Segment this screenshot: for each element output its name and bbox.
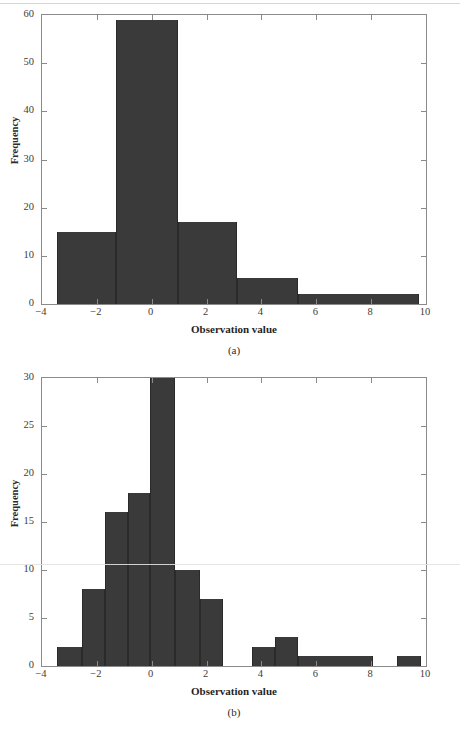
x-axis-tick-label: −2 [90,307,101,318]
y-axis-tick-label: 25 [24,420,35,431]
y-axis-tick [421,570,426,571]
y-axis-tick [42,522,47,523]
x-axis-tick [152,661,153,666]
y-axis-tick-label: 50 [24,57,35,68]
x-axis-tick [207,15,208,20]
x-axis-tick [261,15,262,20]
y-axis-tick [42,474,47,475]
y-axis-tick-label: 20 [24,468,35,479]
histogram-bar [57,647,82,666]
x-axis-tick [261,299,262,304]
histogram-bar [175,570,200,666]
x-axis-tick-label: 0 [148,307,153,318]
y-axis-tick [42,160,47,161]
x-axis-tick [316,661,317,666]
y-axis-tick-label: 10 [24,250,35,261]
x-axis-tick-label: 10 [420,669,431,680]
y-axis-tick-label: 40 [24,105,35,116]
histogram-bar [178,222,237,304]
y-axis-tick [421,160,426,161]
plot-area-b [41,377,427,667]
x-axis-tick-label: 4 [258,307,263,318]
x-axis-tick-label: 6 [313,669,318,680]
y-axis-tick-label: 15 [24,516,35,527]
y-axis-tick-label: 10 [24,564,35,575]
x-axis-tick [207,378,208,383]
x-axis-tick [152,15,153,20]
x-axis-tick-label: 6 [313,307,318,318]
x-axis-tick [152,299,153,304]
y-axis-tick [421,618,426,619]
x-axis-tick-label: 2 [203,669,208,680]
x-axis-tick [371,15,372,20]
x-axis-tick-label: 8 [368,669,373,680]
histogram-bar [200,599,223,666]
y-axis-title-a: Frequency [9,111,20,171]
x-axis-tick-label: 10 [420,307,431,318]
y-axis-tick [42,570,47,571]
x-axis-tick-labels-b: −4−20246810 [41,669,427,685]
y-axis-tick [42,111,47,112]
figure-a: 0102030405060 −4−20246810 Frequency Obse… [0,0,460,365]
histogram-bar [237,278,299,304]
y-axis-tick-label: 0 [29,298,34,309]
histogram-bar [252,647,275,666]
x-axis-tick-label: −2 [90,669,101,680]
x-axis-tick [371,378,372,383]
y-axis-tick [42,208,47,209]
x-axis-tick [371,661,372,666]
y-axis-tick-label: 0 [29,660,34,671]
plot-area-a [41,14,427,305]
x-axis-tick [152,378,153,383]
histogram-bar [82,589,105,666]
x-axis-tick [207,661,208,666]
histogram-bar [105,512,128,666]
y-axis-tick-label: 30 [24,153,35,164]
histogram-bar [128,493,150,666]
x-axis-tick [316,15,317,20]
y-axis-tick [42,618,47,619]
y-axis-tick-label: 20 [24,201,35,212]
x-axis-tick-label: 0 [148,669,153,680]
x-axis-title-a: Observation value [41,323,427,335]
x-axis-tick [207,299,208,304]
y-axis-tick [421,426,426,427]
x-axis-tick [97,15,98,20]
x-axis-tick [97,299,98,304]
histogram-bars-a [42,15,426,304]
histogram-bar [275,637,298,666]
y-axis-tick [42,256,47,257]
y-axis-tick [42,63,47,64]
y-axis-tick [421,208,426,209]
x-axis-tick [97,661,98,666]
y-axis-tick-label: 5 [29,612,34,623]
x-axis-tick-label: 2 [203,307,208,318]
y-axis-tick [421,256,426,257]
x-axis-tick [316,378,317,383]
x-axis-tick [316,299,317,304]
x-axis-title-b: Observation value [41,685,427,697]
x-axis-tick [261,661,262,666]
histogram-bar [116,20,178,304]
figure-caption-b: (b) [41,706,427,718]
x-axis-tick-label: −4 [35,669,46,680]
scan-artifact-mid [0,564,460,565]
x-axis-tick-label: 8 [368,307,373,318]
figure-b: 051015202530 −4−20246810 Frequency Obser… [0,365,460,730]
y-axis-tick-label: 60 [24,9,35,20]
x-axis-tick [97,378,98,383]
histogram-bar [298,656,372,666]
figure-caption-a: (a) [41,344,427,356]
x-axis-tick-label: 4 [258,669,263,680]
y-axis-tick [421,63,426,64]
x-axis-tick-label: −4 [35,307,46,318]
x-axis-tick [261,378,262,383]
histogram-bar [397,656,420,666]
x-axis-tick-labels-a: −4−20246810 [41,307,427,323]
y-axis-tick [421,111,426,112]
y-axis-tick [421,474,426,475]
x-axis-tick [371,299,372,304]
histogram-bars-b [42,378,426,666]
y-axis-tick [421,522,426,523]
histogram-bar [150,378,175,666]
